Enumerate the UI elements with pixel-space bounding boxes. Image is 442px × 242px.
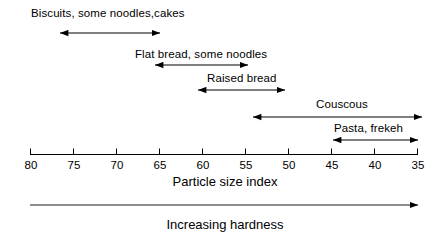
x-tick-label-40: 40 xyxy=(369,159,382,171)
increasing-hardness-label: Increasing hardness xyxy=(166,218,283,232)
x-tick-label-55: 55 xyxy=(240,159,253,171)
x-tick-label-35: 35 xyxy=(412,159,425,171)
x-axis-title: Particle size index xyxy=(173,175,278,189)
x-tick-label-75: 75 xyxy=(68,159,81,171)
range-label-pasta-frekeh: Pasta, frekeh xyxy=(334,122,403,134)
x-tick-label-60: 60 xyxy=(197,159,210,171)
range-label-couscous: Couscous xyxy=(316,98,368,110)
x-axis-ticks xyxy=(31,149,418,155)
figure-vector-layer xyxy=(0,0,442,242)
x-tick-label-70: 70 xyxy=(111,159,124,171)
x-tick-label-45: 45 xyxy=(326,159,339,171)
range-label-raised-bread: Raised bread xyxy=(207,72,277,84)
range-label-flat-bread: Flat bread, some noodles xyxy=(135,48,267,60)
x-axis xyxy=(30,149,418,155)
range-label-biscuits: Biscuits, some noodles,cakes xyxy=(31,7,185,19)
x-tick-label-50: 50 xyxy=(283,159,296,171)
particle-size-index-figure: Biscuits, some noodles,cakes Flat bread,… xyxy=(0,0,442,242)
x-tick-label-65: 65 xyxy=(154,159,167,171)
x-tick-label-80: 80 xyxy=(25,159,38,171)
